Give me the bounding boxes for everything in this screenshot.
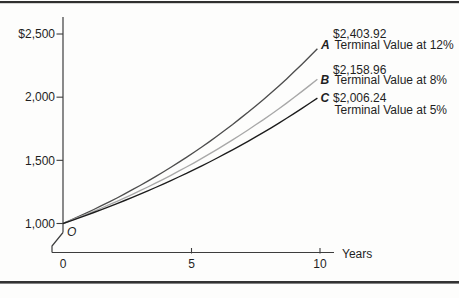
series-b-letter: B: [321, 73, 330, 87]
origin-label: O: [67, 225, 76, 239]
y-tick-label: 1,500: [25, 154, 55, 168]
compound-interest-figure: $2,5002,0001,5001,000 0510 O Years $2,40…: [0, 0, 459, 298]
x-axis-ticks: 0510: [60, 248, 327, 271]
series-c-name: Terminal Value at 5%: [335, 103, 448, 117]
y-axis-break: [52, 233, 63, 253]
y-tick-label: 1,000: [25, 217, 55, 231]
curves-group: [63, 49, 317, 224]
x-tick-label: 0: [60, 257, 67, 271]
curve-C: [63, 98, 317, 223]
curve-A: [63, 49, 317, 224]
series-a-letter: A: [320, 38, 330, 52]
curve-B: [63, 79, 317, 223]
y-tick-label: $2,500: [18, 27, 55, 41]
series-a-name: Terminal Value at 12%: [335, 38, 455, 52]
terminal-value-chart: $2,5002,0001,5001,000 0510 O Years $2,40…: [0, 0, 459, 298]
y-axis-ticks: $2,5002,0001,5001,000: [18, 27, 63, 230]
x-tick-label: 10: [313, 257, 327, 271]
top-rule: [0, 1, 459, 3]
series-c-letter: C: [321, 91, 330, 105]
x-tick-label: 5: [188, 257, 195, 271]
bottom-rule: [0, 281, 459, 284]
y-tick-label: 2,000: [25, 90, 55, 104]
x-axis-title: Years: [342, 247, 372, 261]
series-b-name: Terminal Value at 8%: [335, 73, 448, 87]
